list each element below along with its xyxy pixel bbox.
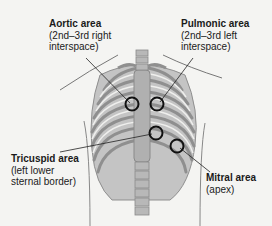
- mitral-area-label: Mitral area (apex): [206, 172, 256, 195]
- right-torso-outline: [200, 123, 205, 226]
- tricuspid-area-desc-2: sternal border): [11, 176, 79, 188]
- tricuspid-area-label: Tricuspid area (left lower sternal borde…: [11, 153, 79, 188]
- tricuspid-area-desc-1: (left lower: [11, 165, 79, 177]
- aortic-area-title: Aortic area: [49, 18, 111, 30]
- left-torso-outline: [84, 121, 90, 226]
- mitral-area-title: Mitral area: [206, 172, 256, 184]
- aortic-area-desc-1: (2nd–3rd right: [49, 30, 111, 42]
- aortic-area-label: Aortic area (2nd–3rd right interspace): [49, 18, 111, 53]
- sternum: [134, 70, 150, 162]
- tricuspid-area-title: Tricuspid area: [11, 153, 79, 165]
- pulmonic-area-desc-1: (2nd–3rd left: [181, 30, 249, 42]
- aortic-area-desc-2: interspace): [49, 41, 111, 53]
- mitral-area-desc-1: (apex): [206, 184, 256, 196]
- pulmonic-area-desc-2: interspace): [181, 41, 249, 53]
- pulmonic-area-title: Pulmonic area: [181, 18, 249, 30]
- pulmonic-area-label: Pulmonic area (2nd–3rd left interspace): [181, 18, 249, 53]
